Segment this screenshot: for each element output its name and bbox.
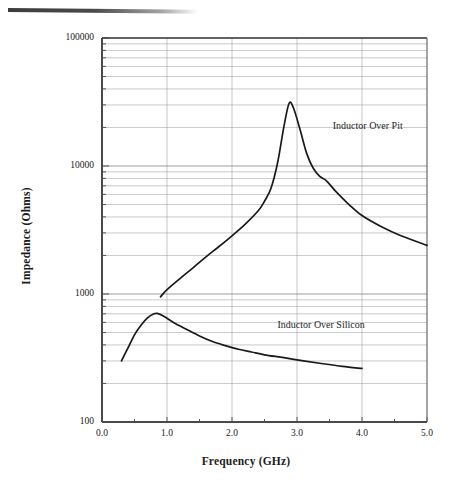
x-tick-label: 3.0 — [277, 428, 317, 438]
y-tick-label: 10000 — [30, 160, 94, 170]
silicon-curve-label: Inductor Over Silicon — [278, 319, 365, 330]
y-tick-label: 100 — [30, 416, 94, 426]
y-tick-label: 100000 — [30, 32, 94, 42]
y-tick-label: 1000 — [30, 288, 94, 298]
x-tick-label: 0.0 — [82, 428, 122, 438]
chart-figure: Impedance (Ohms) Frequency (GHz) 1001000… — [0, 0, 456, 495]
x-tick-label: 1.0 — [147, 428, 187, 438]
x-axis-title: Frequency (GHz) — [146, 455, 346, 467]
x-tick-label: 2.0 — [212, 428, 252, 438]
x-tick-label: 4.0 — [342, 428, 382, 438]
x-tick-label: 5.0 — [407, 428, 447, 438]
pit-curve-label: Inductor Over Pit — [333, 120, 403, 131]
